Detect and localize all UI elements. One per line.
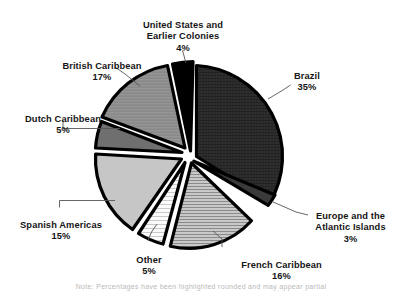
pie-label-dutch-caribbean: Dutch Caribbean 5% — [2, 102, 124, 148]
pie-label-brazil-name: Brazil — [294, 71, 320, 81]
pie-label-dutch-caribbean-pct: 5% — [2, 125, 124, 137]
pie-chart-figure: United States and Earlier Colonies 4% Br… — [0, 0, 402, 295]
pie-label-british-caribbean: British Caribbean 17% — [37, 49, 167, 95]
pie-label-british-caribbean-pct: 17% — [37, 72, 167, 84]
figure-caption: Note: Percentages have been highlighted … — [0, 283, 402, 295]
pie-label-british-caribbean-name: British Caribbean — [62, 61, 141, 71]
pie-label-europe-atlantic: Europe and the Atlantic Islands 3% — [299, 199, 402, 257]
pie-label-spanish-americas-pct: 15% — [0, 231, 122, 243]
pie-label-brazil-pct: 35% — [272, 82, 342, 94]
pie-label-dutch-caribbean-name: Dutch Caribbean — [25, 114, 101, 124]
pie-label-spanish-americas: Spanish Americas 15% — [0, 208, 122, 254]
pie-label-other-name: Other — [136, 255, 161, 265]
pie-label-united-states-name: United States and Earlier Colonies — [143, 20, 223, 42]
pie-label-spanish-americas-name: Spanish Americas — [20, 220, 102, 230]
pie-label-brazil: Brazil 35% — [272, 59, 342, 105]
pie-label-french-caribbean-pct: 16% — [219, 271, 344, 283]
pie-label-french-caribbean-name: French Caribbean — [241, 260, 322, 270]
pie-label-other-pct: 5% — [109, 266, 189, 278]
pie-label-europe-atlantic-name: Europe and the Atlantic Islands — [315, 211, 385, 233]
pie-label-europe-atlantic-pct: 3% — [299, 234, 402, 246]
